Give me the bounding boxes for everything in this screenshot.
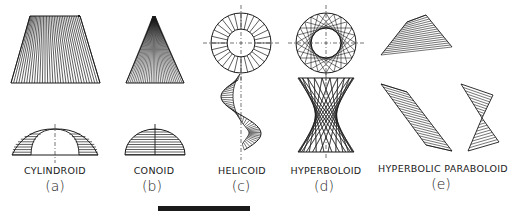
cylindroid-top-view (12, 124, 98, 163)
label-conoid: CONOID (124, 165, 184, 176)
sublabel-c: (c) (226, 178, 256, 194)
sublabel-d: (d) (309, 178, 339, 194)
cylindroid-front-view (11, 16, 100, 83)
hyperboloid-top-view (288, 5, 364, 81)
label-hyperboloid: HYPERBOLOID (286, 165, 366, 176)
sublabel-e: (e) (426, 176, 456, 192)
hyperbolic-paraboloid-views (381, 15, 499, 151)
sublabel-b: (b) (137, 178, 167, 194)
sublabel-a: (a) (40, 178, 70, 194)
helicoid-top-view (203, 5, 279, 81)
black-bar (158, 206, 250, 211)
label-hyperbolic-paraboloid: HYPERBOLIC PARABOLOID (378, 163, 508, 174)
helicoid-front-view (221, 74, 261, 160)
label-cylindroid: CYLINDROID (20, 165, 90, 176)
conoid-front-view (126, 16, 184, 83)
conoid-top-view (125, 124, 185, 155)
label-helicoid: HELICOID (212, 165, 272, 176)
hyperboloid-front-view (298, 73, 354, 158)
